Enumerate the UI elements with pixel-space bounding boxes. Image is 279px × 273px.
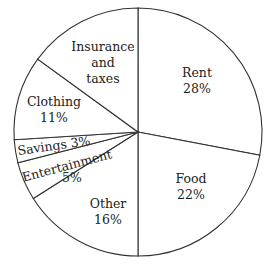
pie-chart: Rent 28% Food 22% Other 16% Entertainmen… xyxy=(0,0,279,273)
label-other-name: Other xyxy=(90,196,127,211)
label-insurance-line2: and xyxy=(91,55,115,70)
label-food-pct: 22% xyxy=(177,187,205,202)
label-rent-pct: 28% xyxy=(183,81,211,96)
label-rent-name: Rent xyxy=(182,65,212,80)
pie-slices xyxy=(14,8,262,256)
label-other-pct: 16% xyxy=(94,212,122,227)
label-insurance-line3: taxes xyxy=(86,71,119,86)
label-entertainment-pct: 5% xyxy=(62,170,82,185)
label-clothing-pct: 11% xyxy=(40,110,68,125)
label-clothing-name: Clothing xyxy=(27,94,81,109)
label-food-name: Food xyxy=(175,171,206,186)
label-insurance-line1: Insurance xyxy=(71,39,134,54)
